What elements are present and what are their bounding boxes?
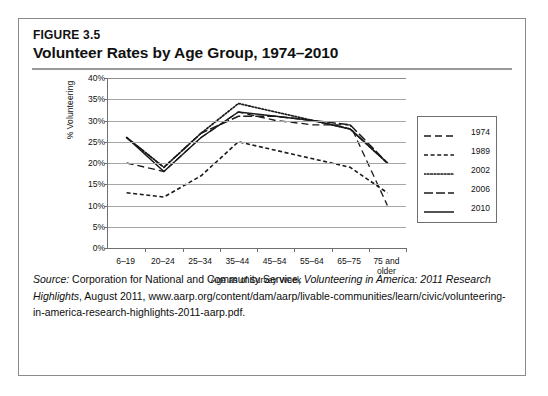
y-tick-mark [104,99,108,100]
legend-label-1974: 1974 [458,127,490,137]
source-url-part-2: highlights-2011-aarp.pdf. [130,306,245,318]
gridline [108,184,406,185]
source-text-1: Corporation for National and Community S… [69,273,304,285]
figure-header: FIGURE 3.5 Volunteer Rates by Age Group,… [19,19,525,62]
y-tick-mark [104,121,108,122]
y-tick-label: 20% [71,159,105,167]
gridline [108,78,406,79]
legend-item-1989[interactable]: 1989 [418,141,496,160]
source-label: Source: [33,273,69,285]
x-tick-label: 45–54 [263,256,287,266]
figure-number: FIGURE 3.5 [33,28,511,42]
y-axis-tick-labels: 0%5%10%15%20%25%30%35%40% [71,70,105,280]
legend-label-2002: 2002 [458,165,490,175]
series-line-1974 [127,112,388,206]
y-tick-mark [104,78,108,79]
legend-item-2006[interactable]: 2006 [418,179,496,198]
y-tick-mark [104,184,108,185]
y-tick-label: 15% [71,180,105,188]
x-tick-mark [369,248,370,252]
legend-item-1974[interactable]: 1974 [418,122,496,141]
legend-item-2010[interactable]: 2010 [418,198,496,217]
legend-label-1989: 1989 [458,146,490,156]
x-tick-mark [406,248,407,252]
x-tick-mark [183,248,184,252]
chart-area: % Volunteering 0%5%10%15%20%25%30%35%40%… [19,70,525,280]
chart-legend: 19741989200220062010 [417,116,497,223]
x-tick-label: 55–64 [300,256,324,266]
y-tick-label: 5% [71,223,105,231]
y-tick-mark [104,227,108,228]
y-tick-mark [104,206,108,207]
y-tick-label: 30% [71,117,105,125]
legend-label-2010: 2010 [458,203,490,213]
x-tick-mark [220,248,221,252]
y-tick-label: 40% [71,74,105,82]
series-line-2002 [127,104,388,168]
gridline [108,206,406,207]
x-tick-label: 6–19 [116,256,135,266]
source-note: Source: Corporation for National and Com… [33,271,513,321]
y-tick-label: 25% [71,138,105,146]
y-tick-mark [104,142,108,143]
x-tick-label: 65–75 [337,256,361,266]
x-tick-label: 20–24 [151,256,175,266]
x-tick-mark [257,248,258,252]
y-tick-mark [104,163,108,164]
y-tick-label: 10% [71,202,105,210]
legend-item-2002[interactable]: 2002 [418,160,496,179]
legend-swatch-1974 [424,127,454,137]
y-tick-label: 35% [71,95,105,103]
gridline [108,227,406,228]
x-tick-mark [294,248,295,252]
plot-area [107,78,406,249]
y-tick-label: 0% [71,244,105,252]
x-tick-label: 25–34 [188,256,212,266]
gridline [108,142,406,143]
legend-label-2006: 2006 [458,184,490,194]
legend-swatch-1989 [424,146,454,156]
gridline [108,163,406,164]
figure-title: Volunteer Rates by Age Group, 1974–2010 [33,44,511,62]
legend-swatch-2010 [424,203,454,213]
gridline [108,99,406,100]
y-tick-mark [104,248,108,249]
gridline [108,121,406,122]
figure-container: FIGURE 3.5 Volunteer Rates by Age Group,… [18,18,526,376]
x-tick-label: 35–44 [226,256,250,266]
source-text-2: , August 2011, www.aarp.org/content/dam/ [79,290,276,302]
x-tick-mark [145,248,146,252]
legend-swatch-2002 [424,165,454,175]
x-tick-mark [332,248,333,252]
legend-swatch-2006 [424,184,454,194]
